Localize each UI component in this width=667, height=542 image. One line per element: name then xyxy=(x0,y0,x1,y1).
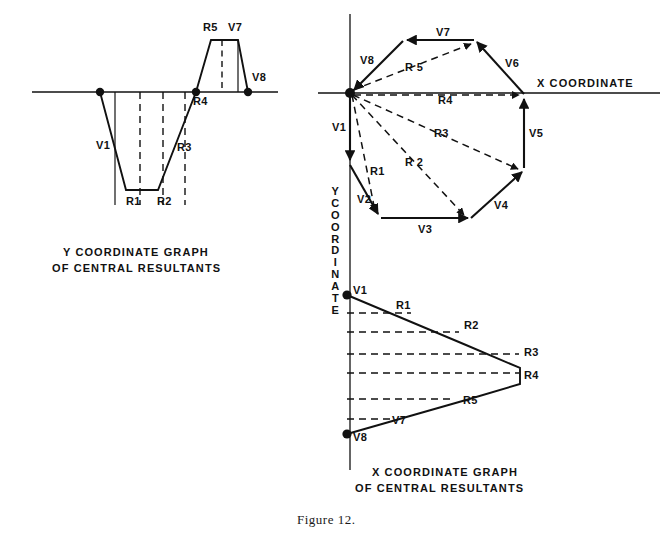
x-graph-node-v8 xyxy=(342,429,351,438)
y-axis-char-1: C xyxy=(331,198,339,210)
y-coordinate-graph xyxy=(32,40,278,205)
octagon-label-v5: V5 xyxy=(529,128,543,139)
x-graph-node-v1 xyxy=(342,290,351,299)
x-graph-caption-line2: OF CENTRAL RESULTANTS xyxy=(355,482,524,494)
octagon-label-r1: R1 xyxy=(370,166,385,177)
x-graph-label-r4: R4 xyxy=(524,370,539,381)
octagon-label-v8: V8 xyxy=(360,55,374,66)
y-graph-waveform xyxy=(100,40,248,190)
x-graph-label-r3: R3 xyxy=(524,347,539,358)
x-graph-caption-line1: X COORDINATE GRAPH xyxy=(372,466,518,478)
y-axis-char-9: T xyxy=(332,293,339,305)
y-graph-label-r5: R5 xyxy=(203,22,218,33)
y-graph-label-r3: R3 xyxy=(177,142,192,153)
x-graph-label-r1: R1 xyxy=(396,300,411,311)
x-graph-label-r5: R5 xyxy=(463,395,478,406)
x-graph-profile xyxy=(347,295,520,434)
y-axis-char-3: O xyxy=(331,222,340,234)
octagon-label-v4: V4 xyxy=(494,200,508,211)
x-graph-label-v1: V1 xyxy=(353,285,367,296)
x-graph-label-r2: R2 xyxy=(464,320,479,331)
y-axis-char-10: E xyxy=(332,305,340,317)
figure-caption: Figure 12. xyxy=(297,512,355,528)
y-graph-caption-line2: OF CENTRAL RESULTANTS xyxy=(52,262,221,274)
octagon-y-axis-label: Y C O O R D I N A T E xyxy=(331,186,340,317)
octagon-label-v2: V2 xyxy=(357,194,371,205)
octagon-label-r5: R 5 xyxy=(405,62,423,73)
y-graph-label-v1: V1 xyxy=(96,140,110,151)
y-graph-label-v8: V8 xyxy=(252,72,266,83)
octagon-label-v3: V3 xyxy=(418,224,432,235)
y-axis-char-2: O xyxy=(331,210,340,222)
octagon-origin-node xyxy=(345,88,355,98)
x-graph-label-v7: V7 xyxy=(392,415,406,426)
octagon-vector-v4 xyxy=(471,172,522,218)
octagon-label-v1: V1 xyxy=(332,122,346,133)
y-graph-node-v8 xyxy=(244,88,252,96)
y-graph-label-r1: R1 xyxy=(126,196,141,207)
y-graph-label-r4: R4 xyxy=(193,96,208,107)
y-graph-node-v1 xyxy=(96,88,104,96)
x-graph-label-v8: V8 xyxy=(353,432,367,443)
y-graph-caption-line1: Y COORDINATE GRAPH xyxy=(63,246,209,258)
x-coordinate-graph xyxy=(342,290,520,438)
octagon-label-v7: V7 xyxy=(436,27,450,38)
y-graph-label-r2: R2 xyxy=(157,196,172,207)
octagon-x-axis-label: X COORDINATE xyxy=(537,78,634,89)
octagon-label-r3: R3 xyxy=(434,128,449,139)
octagon-label-r4: R4 xyxy=(438,95,453,106)
octagon-label-v6: V6 xyxy=(505,58,519,69)
y-graph-label-v7: V7 xyxy=(228,22,242,33)
octagon-label-r2: R 2 xyxy=(405,157,423,168)
figure-12-root: V1 R1 R2 R3 R4 R5 V7 V8 Y COORDINATE GRA… xyxy=(0,0,667,542)
